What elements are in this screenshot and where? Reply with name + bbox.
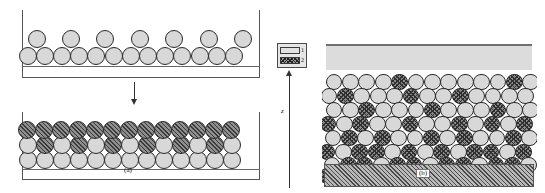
legend-item-1: 1: [280, 46, 304, 54]
panel-a-initial-sphere: [165, 30, 183, 48]
panel-a-label: (a): [118, 167, 138, 174]
vessel-wall-left: [22, 10, 23, 78]
panel-a-compacted-sphere: [222, 121, 240, 139]
panel-a-compacted-sphere: [120, 121, 138, 139]
z-axis-shaft: [289, 76, 290, 188]
panel-a-initial-sphere: [139, 47, 157, 65]
panel-b-label: (b): [416, 169, 430, 178]
panel-a-compacted-sphere: [35, 121, 53, 139]
panel-a-initial-sphere: [131, 30, 149, 48]
z-axis-label: z: [281, 108, 284, 115]
vessel2-base: [22, 179, 260, 180]
panel-a-initial-sphere: [234, 30, 252, 48]
panel-a-initial-sphere: [36, 47, 54, 65]
panel-a-compacted-sphere: [86, 121, 104, 139]
panel-a-compacted-sphere: [18, 121, 36, 139]
panel-a-compacted-sphere: [137, 121, 155, 139]
vessel-wall-right: [259, 10, 260, 78]
panel-a-initial-sphere: [191, 47, 209, 65]
panel-a-initial-sphere: [208, 47, 226, 65]
panel-a-initial-sphere: [70, 47, 88, 65]
legend-label-2: 2: [301, 57, 304, 63]
panel-b-bed: (b): [322, 42, 537, 190]
transition-arrow-shaft: [134, 82, 135, 100]
panel-a-initial-sphere: [225, 47, 243, 65]
panel-a-initial-sphere: [53, 47, 71, 65]
panel-a-compacted-sphere: [205, 121, 223, 139]
legend-swatch-checker-icon: [280, 57, 300, 64]
vessel-base: [22, 77, 260, 78]
legend-item-2: 2: [280, 56, 304, 64]
legend-box: 1 2: [277, 43, 307, 68]
panel-a-initial-sphere: [122, 47, 140, 65]
vessel2-floor-line: [22, 169, 260, 170]
panel-a-initial-sphere: [62, 30, 80, 48]
transition-arrow-head-icon: [131, 99, 137, 105]
panel-a-initial-sphere: [28, 30, 46, 48]
panel-a-initial-sphere: [105, 47, 123, 65]
vessel-floor-line: [22, 66, 260, 67]
panel-a-compacted-sphere: [154, 121, 172, 139]
panel-a-compacted-sphere: [188, 121, 206, 139]
figure-root: (a) 1 2 z (b): [0, 0, 545, 193]
z-axis-arrow-head-icon: [286, 70, 292, 76]
legend-swatch-plain-icon: [280, 47, 300, 54]
panel-a-compacted-sphere: [103, 121, 121, 139]
panel-a-initial-sphere: [19, 47, 37, 65]
panel-a-compacted-sphere: [52, 121, 70, 139]
panel-a-initial-sphere: [200, 30, 218, 48]
legend-label-1: 1: [301, 47, 304, 53]
panel-a-compacted-sphere: [171, 121, 189, 139]
panel-a-initial-sphere: [156, 47, 174, 65]
panel-a-compacted-sphere: [69, 121, 87, 139]
